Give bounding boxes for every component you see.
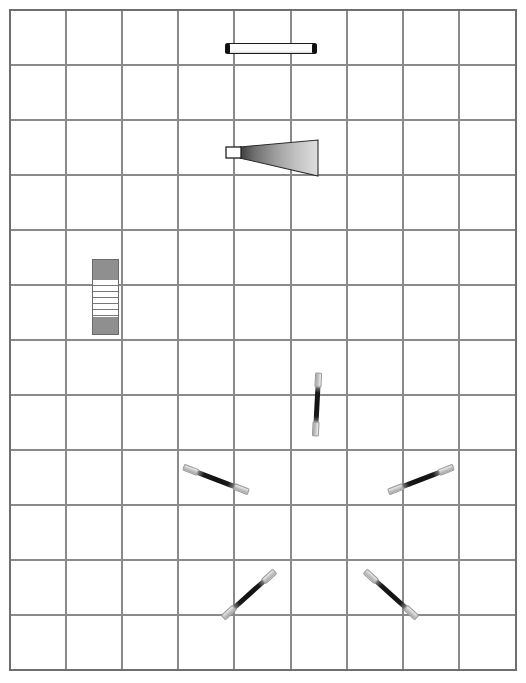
striped-ruler-object[interactable] <box>92 259 119 335</box>
tapered-wedge-object[interactable] <box>224 137 320 179</box>
capsule-right-end-icon <box>312 43 317 54</box>
capsule-left-end-icon <box>225 43 230 54</box>
needle-tip-left <box>363 568 379 584</box>
capsule-rod-object[interactable] <box>225 43 317 54</box>
figure-canvas <box>0 0 526 683</box>
wedge-body <box>240 140 318 176</box>
needle-left-upper-object[interactable] <box>183 464 248 493</box>
needle-left-lower-object[interactable] <box>222 569 276 618</box>
needle-vertical-object[interactable] <box>313 373 321 435</box>
needle-tip-left <box>221 604 237 620</box>
needle-tip-right <box>261 568 277 584</box>
needle-tip-right <box>312 421 319 436</box>
needle-right-upper-object[interactable] <box>388 464 453 493</box>
needle-tip-left <box>315 372 322 387</box>
ruler-stripe-2 <box>93 291 118 292</box>
ruler-bottom-band <box>93 317 118 334</box>
wedge-white-tip <box>226 147 241 158</box>
ruler-stripe-4 <box>93 303 118 304</box>
ruler-stripe-1 <box>93 285 118 286</box>
needle-tip-left <box>387 483 404 495</box>
objects-layer <box>0 0 526 683</box>
needle-tip-right <box>232 483 249 495</box>
ruler-stripe-5 <box>93 309 118 310</box>
needle-tip-right <box>403 604 419 620</box>
ruler-top-band <box>93 260 118 280</box>
needle-tip-right <box>437 464 454 476</box>
needle-tip-left <box>182 464 199 476</box>
ruler-stripe-3 <box>93 297 118 298</box>
needle-right-lower-object[interactable] <box>364 569 418 618</box>
